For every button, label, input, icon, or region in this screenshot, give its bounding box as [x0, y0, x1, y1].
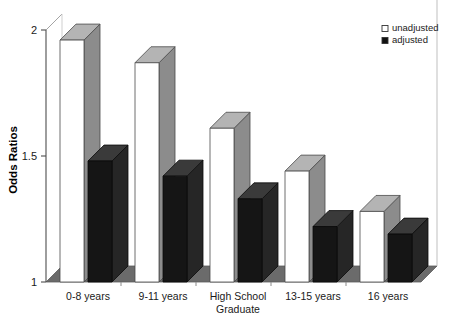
bar-front-face: [163, 176, 187, 282]
bar-side-face: [112, 145, 128, 282]
x-category-label: High School: [210, 290, 267, 302]
y-tick-label: 2: [31, 24, 37, 36]
bars-layer: [60, 24, 428, 282]
bar-group: [60, 24, 128, 282]
x-category-label: 13-15 years: [285, 290, 340, 302]
bar-adjusted: [313, 211, 353, 282]
bar-group: [285, 155, 353, 282]
bar-front-face: [313, 227, 337, 282]
bar-side-face: [262, 183, 278, 282]
bar-front-face: [135, 63, 159, 282]
bar-group: [360, 195, 428, 282]
bar-adjusted: [238, 183, 278, 282]
bar-front-face: [388, 234, 412, 282]
y-axis-title: Odds Ratios: [7, 126, 19, 194]
legend-swatch-open: [382, 26, 388, 32]
bar-group: [210, 112, 278, 282]
legend-item-label: adjusted: [392, 34, 428, 45]
odds-ratio-bar-chart: 11.52Odds Ratios16 years13-15 yearsHigh …: [0, 0, 452, 324]
bar-adjusted: [163, 160, 203, 282]
legend-item-label: unadjusted: [392, 22, 438, 33]
chart-canvas: 11.52Odds Ratios16 years13-15 yearsHigh …: [0, 0, 452, 324]
x-category-label: 9-11 years: [139, 290, 188, 302]
bar-front-face: [60, 40, 84, 282]
bar-front-face: [210, 128, 234, 282]
y-axis-depth-line: [46, 14, 62, 30]
y-tick-label: 1: [31, 276, 37, 288]
y-tick-label: 1.5: [22, 150, 37, 162]
x-category-label: 0-8 years: [66, 290, 110, 302]
legend-swatch-filled: [382, 38, 388, 44]
bar-adjusted: [88, 145, 128, 282]
bar-side-face: [187, 160, 203, 282]
y-axis-title-text: Odds Ratios: [7, 126, 19, 194]
bar-front-face: [238, 199, 262, 282]
y-axis-ticks: 11.52: [22, 24, 46, 288]
bar-front-face: [360, 211, 384, 282]
x-category-label: 16 years: [368, 290, 408, 302]
bar-group: [135, 47, 203, 282]
bar-adjusted: [388, 218, 428, 282]
bar-front-face: [285, 171, 309, 282]
chart-legend: unadjustedadjusted: [382, 22, 438, 45]
category-labels: 16 years13-15 yearsHigh SchoolGraduate9-…: [66, 282, 408, 315]
x-category-label: Graduate: [216, 303, 260, 315]
bar-front-face: [88, 161, 112, 282]
